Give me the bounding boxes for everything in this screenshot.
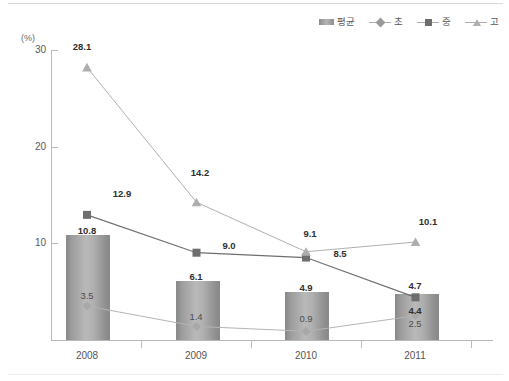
- marker-고-2008[interactable]: [82, 63, 92, 72]
- marker-초-2008[interactable]: [82, 302, 91, 311]
- label-average-2010: 4.9: [281, 282, 331, 293]
- label-average-2009: 6.1: [171, 271, 221, 282]
- label-middle-2008: 12.9: [97, 188, 147, 199]
- label-high-2008: 28.1: [57, 41, 107, 52]
- plot-area: 10.8 6.1 4.9 4.7 12.9 9.0 8.5 4.4 3.5 1.…: [0, 0, 509, 381]
- label-elementary-2008: 3.5: [62, 290, 112, 301]
- label-high-2010: 9.1: [285, 228, 335, 239]
- marker-중-2011[interactable]: [412, 293, 420, 301]
- marker-초-2010[interactable]: [301, 327, 310, 336]
- label-middle-2009: 9.0: [204, 240, 254, 251]
- line-elementary: [87, 306, 416, 331]
- label-middle-2010: 8.5: [315, 248, 365, 259]
- marker-고-2011[interactable]: [411, 237, 421, 246]
- marker-초-2009[interactable]: [192, 322, 201, 331]
- label-average-2011: 4.7: [390, 280, 440, 291]
- label-middle-2011: 4.4: [390, 305, 440, 316]
- label-high-2011: 10.1: [403, 216, 453, 227]
- line-high: [87, 67, 416, 251]
- footnote-caption: [300, 366, 500, 376]
- marker-중-2009[interactable]: [193, 249, 201, 257]
- label-average-2008: 10.8: [62, 225, 112, 236]
- label-elementary-2011: 2.5: [390, 318, 440, 329]
- markers-elementary: [82, 302, 420, 336]
- chart-figure: 평균 초 중 고 (%) 30 20 10 2008 2009 2010 201…: [0, 0, 509, 381]
- label-high-2009: 14.2: [175, 167, 225, 178]
- marker-고-2009[interactable]: [192, 198, 202, 207]
- marker-중-2008[interactable]: [83, 211, 91, 219]
- label-elementary-2010: 0.9: [281, 313, 331, 324]
- markers-middle: [83, 211, 420, 301]
- label-elementary-2009: 1.4: [171, 311, 221, 322]
